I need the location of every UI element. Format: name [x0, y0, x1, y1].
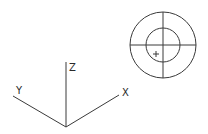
z-axis-label: Z — [69, 62, 76, 73]
x-axis-label: X — [122, 87, 129, 98]
compass-cursor-plus-icon — [153, 51, 159, 57]
y-axis-line — [13, 96, 66, 127]
vpoint-diagram: Z Y X — [0, 0, 208, 134]
y-axis-label: Y — [15, 85, 23, 96]
viewpoint-compass[interactable] — [130, 12, 196, 78]
axis-tripod: Z Y X — [13, 62, 129, 127]
x-axis-line — [66, 95, 119, 127]
